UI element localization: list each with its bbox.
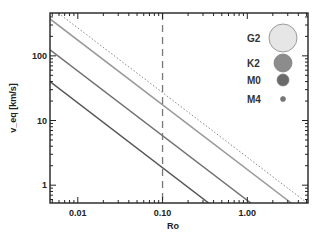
legend: G2K2M0M4 — [247, 24, 297, 105]
axis-tick-labels: 0.010.101.00110100 — [32, 51, 256, 218]
legend-label-m0: M0 — [247, 75, 261, 86]
x-tick-label: 0.10 — [154, 208, 172, 218]
series-line-g2 — [50, 19, 291, 203]
x-tick-label: 0.01 — [69, 208, 87, 218]
series-line-k2 — [50, 50, 251, 203]
x-axis-label: Ro — [167, 221, 179, 231]
legend-label-g2: G2 — [247, 33, 261, 44]
y-axis-label: v_eq [km/s] — [8, 83, 18, 133]
series-line-m0 — [50, 82, 209, 203]
legend-marker-m4 — [281, 97, 286, 102]
legend-marker-m0 — [277, 74, 289, 86]
y-tick-label: 10 — [37, 116, 47, 126]
plot-lines — [50, 7, 307, 203]
legend-label-k2: K2 — [247, 58, 260, 69]
series-line-limit — [50, 7, 307, 203]
x-tick-label: 1.00 — [239, 208, 257, 218]
y-tick-label: 100 — [32, 51, 47, 61]
legend-label-m4: M4 — [247, 94, 261, 105]
chart: 0.010.101.00110100 Ro v_eq [km/s] G2K2M0… — [0, 0, 320, 239]
legend-marker-k2 — [274, 54, 292, 72]
legend-marker-g2 — [269, 24, 297, 52]
y-tick-label: 1 — [42, 180, 47, 190]
